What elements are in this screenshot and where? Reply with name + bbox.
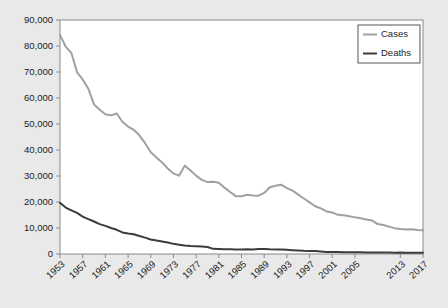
- y-axis-tick-label: 0: [48, 248, 53, 259]
- y-axis-tick-label: 20,000: [24, 196, 53, 207]
- y-axis-tick-label: 30,000: [24, 170, 53, 181]
- legend-label-deaths: Deaths: [381, 47, 411, 58]
- y-axis-tick-label: 70,000: [24, 66, 53, 77]
- y-axis-tick-label: 10,000: [24, 222, 53, 233]
- chart-legend: CasesDeaths: [358, 25, 420, 63]
- y-axis-tick-label: 50,000: [24, 118, 53, 129]
- y-axis-tick-label: 60,000: [24, 92, 53, 103]
- chart-container: 010,00020,00030,00040,00050,00060,00070,…: [0, 0, 448, 308]
- line-chart: 010,00020,00030,00040,00050,00060,00070,…: [0, 0, 448, 308]
- y-axis-tick-label: 40,000: [24, 144, 53, 155]
- y-axis-tick-label: 80,000: [24, 40, 53, 51]
- legend-label-cases: Cases: [381, 28, 408, 39]
- y-axis-tick-label: 90,000: [24, 14, 53, 25]
